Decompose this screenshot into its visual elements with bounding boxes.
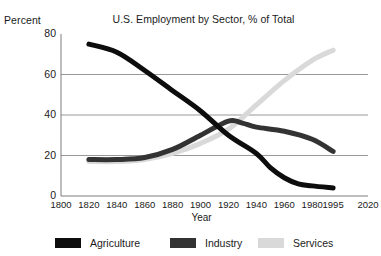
series-line-agriculture <box>89 44 333 188</box>
x-tick-label-1980: 1980 <box>302 199 323 210</box>
x-axis-label-text: Year <box>169 212 211 223</box>
x-tick-label-1940: 1940 <box>246 199 267 210</box>
x-axis-ticks: 1800182018401860188019001920194019601980… <box>0 199 381 213</box>
employment-by-sector-chart: Percent U.S. Employment by Sector, % of … <box>0 0 381 256</box>
series-line-services <box>89 50 333 162</box>
legend-item-services[interactable]: Services <box>258 237 333 249</box>
y-tick-label-80: 80 <box>26 27 56 39</box>
chart-legend: AgricultureIndustryServices <box>0 235 381 253</box>
legend-swatch-services <box>258 238 284 248</box>
legend-item-industry[interactable]: Industry <box>170 237 242 249</box>
y-tick-label-40: 40 <box>26 108 56 120</box>
legend-label-services: Services <box>293 237 333 249</box>
legend-item-agriculture[interactable]: Agriculture <box>55 237 140 249</box>
series-lines <box>89 44 333 188</box>
x-tick-label-1800: 1800 <box>50 199 71 210</box>
x-tick-label-1840: 1840 <box>106 199 127 210</box>
legend-swatch-agriculture <box>55 238 81 248</box>
x-tick-label-2020: 2020 <box>357 199 378 210</box>
x-tick-label-1860: 1860 <box>134 199 155 210</box>
x-tick-label-1960: 1960 <box>274 199 295 210</box>
y-tick-label-20: 20 <box>26 149 56 161</box>
y-tick-label-60: 60 <box>26 68 56 80</box>
x-tick-label-1900: 1900 <box>190 199 211 210</box>
x-tick-label-1920: 1920 <box>218 199 239 210</box>
legend-label-industry: Industry <box>205 237 242 249</box>
x-tick-label-1820: 1820 <box>78 199 99 210</box>
x-tick-label-1880: 1880 <box>162 199 183 210</box>
legend-swatch-industry <box>170 238 196 248</box>
x-axis-label: Year <box>0 212 381 223</box>
x-tick-label-1995: 1995 <box>323 199 344 210</box>
legend-label-agriculture: Agriculture <box>90 237 140 249</box>
